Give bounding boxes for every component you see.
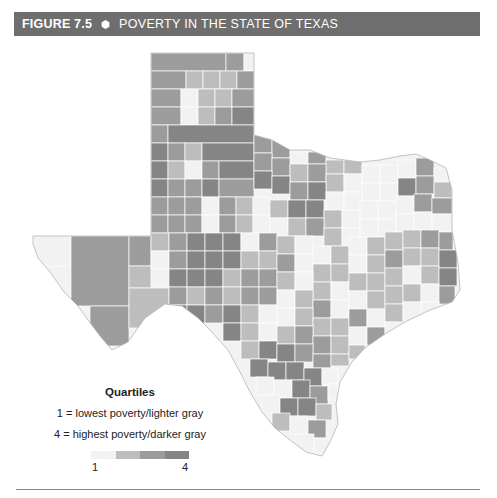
county (259, 251, 277, 269)
county (254, 171, 272, 189)
county (185, 179, 202, 197)
county (331, 354, 349, 366)
county (181, 107, 198, 125)
county (421, 248, 439, 266)
county (259, 233, 277, 251)
county (241, 269, 259, 287)
county (296, 434, 314, 452)
county (439, 232, 453, 250)
legend-max-label: 4 (182, 461, 188, 473)
county (396, 196, 414, 214)
county (219, 215, 236, 233)
county (219, 179, 254, 197)
county (313, 264, 331, 282)
figure-title: POVERTY IN THE STATE OF TEXAS (119, 17, 338, 31)
county (367, 291, 385, 309)
county (308, 164, 326, 182)
county (272, 158, 290, 176)
county (259, 341, 277, 359)
county (169, 251, 187, 269)
county (398, 160, 416, 178)
county (205, 269, 223, 287)
county (378, 201, 396, 219)
county (288, 218, 306, 236)
legend: Quartiles 1 = lowest poverty/lighter gra… (30, 386, 230, 449)
county (241, 305, 259, 323)
county (33, 236, 71, 266)
county (169, 233, 187, 251)
county (185, 143, 202, 161)
county (168, 179, 185, 197)
bottom-rule (16, 489, 480, 490)
county (313, 246, 331, 264)
county (288, 200, 306, 218)
county (380, 183, 398, 201)
county (421, 302, 439, 320)
county (272, 413, 290, 431)
county (202, 197, 219, 215)
county (272, 176, 290, 194)
county (403, 230, 421, 248)
county (129, 288, 169, 328)
county (205, 233, 223, 251)
county (292, 380, 310, 398)
county (219, 197, 236, 215)
county (306, 218, 324, 236)
county (313, 336, 331, 354)
county (360, 219, 378, 237)
county (385, 250, 403, 268)
county (168, 215, 185, 233)
county (324, 228, 342, 246)
legend-swatch-2 (116, 451, 141, 459)
county (290, 416, 308, 434)
county (259, 305, 277, 323)
county (151, 215, 168, 233)
county (151, 143, 168, 161)
county (151, 107, 181, 125)
county (367, 255, 385, 273)
county (215, 107, 232, 125)
county (295, 236, 313, 254)
county (223, 233, 241, 251)
county (187, 233, 205, 251)
county (259, 287, 277, 305)
legend-min-label: 1 (92, 461, 98, 473)
county (277, 254, 295, 272)
figure-number: FIGURE 7.5 (22, 17, 92, 31)
county (185, 197, 202, 215)
county (277, 290, 295, 308)
legend-swatch-4 (165, 451, 190, 459)
county (236, 215, 253, 233)
county (250, 359, 268, 377)
county (168, 125, 254, 143)
county (151, 125, 168, 143)
county (223, 251, 241, 269)
county (403, 266, 421, 284)
county (270, 200, 288, 218)
legend-swatch-1 (91, 451, 116, 459)
county (331, 300, 349, 318)
county (349, 237, 367, 255)
county (434, 182, 452, 198)
county (202, 143, 254, 161)
county (151, 89, 181, 107)
county (198, 89, 215, 107)
county (328, 384, 338, 400)
county (205, 251, 223, 269)
county (385, 268, 403, 286)
county (129, 266, 151, 288)
county (385, 322, 399, 336)
county (237, 71, 254, 89)
county (272, 140, 290, 158)
county (398, 178, 416, 196)
county (185, 161, 202, 179)
county (421, 230, 439, 248)
county (322, 368, 338, 384)
county (295, 254, 313, 272)
county (342, 210, 360, 228)
county (306, 200, 324, 218)
county (277, 308, 295, 326)
legend-line-high: 4 = highest poverty/darker gray (30, 428, 230, 440)
county (295, 272, 313, 290)
county (385, 304, 403, 322)
